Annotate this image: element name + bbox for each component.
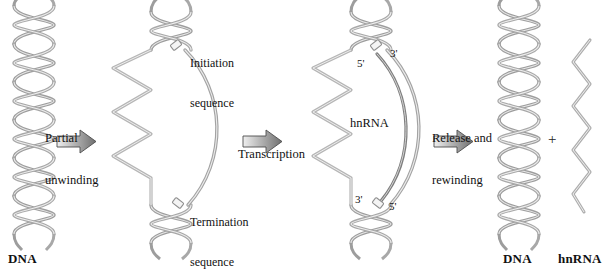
label-termination-sequence: Termination sequence xyxy=(190,189,248,275)
caption-hnrna-right: hnRNA xyxy=(558,252,602,267)
initiation-line1: Initiation xyxy=(190,57,234,70)
step-label-line2: rewinding xyxy=(432,173,492,187)
label-hnrna-transcript: hnRNA xyxy=(350,116,389,130)
termination-line1: Termination xyxy=(190,216,248,229)
label-5prime-bottom: 5' xyxy=(389,200,396,212)
step-label-release-rewinding: Release and rewinding xyxy=(432,103,492,215)
step-label-line1: Release and xyxy=(432,131,492,145)
termination-sequence-marker xyxy=(172,197,184,208)
label-5prime-top: 5' xyxy=(357,57,364,69)
plus-sign: + xyxy=(548,131,556,148)
step-label-line1: Partial xyxy=(45,131,98,145)
initiation-line2: sequence xyxy=(190,97,234,110)
step-label-partial-unwinding: Partial unwinding xyxy=(45,103,98,215)
step-label-transcription: Transcription xyxy=(238,119,305,189)
label-3prime-top: 3' xyxy=(390,47,397,59)
step-label-line2: unwinding xyxy=(45,173,98,187)
dna-double-helix-right xyxy=(499,0,539,250)
label-initiation-sequence: Initiation sequence xyxy=(190,30,234,138)
transcription-diagram: Partial unwinding Initiation sequence Te… xyxy=(0,0,609,275)
caption-dna-right: DNA xyxy=(503,252,532,267)
termination-line2: sequence xyxy=(190,256,248,269)
hnrna-single-strand xyxy=(573,40,590,212)
step-label-line1: Transcription xyxy=(238,147,305,161)
label-3prime-bottom: 3' xyxy=(355,193,362,205)
caption-dna-left: DNA xyxy=(8,252,37,267)
